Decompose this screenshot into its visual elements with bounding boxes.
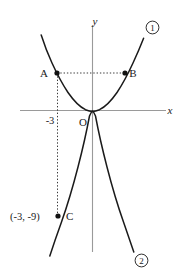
coordinate-plane-svg: A B C (-3, -9) O -3 x y 1 2	[0, 0, 183, 269]
curve-two-marker: 2	[135, 254, 148, 267]
graph-figure: A B C (-3, -9) O -3 x y 1 2	[0, 0, 183, 269]
parabola-downward	[50, 111, 134, 256]
origin-label: O	[79, 116, 87, 128]
point-b-marker	[122, 70, 127, 75]
curve-two-number: 2	[139, 256, 144, 266]
curve-one-marker: 1	[146, 21, 159, 34]
point-b-label: B	[129, 67, 136, 79]
y-axis-label: y	[92, 15, 98, 27]
x-axis-label: x	[167, 104, 173, 116]
point-c-coordinates: (-3, -9)	[10, 211, 40, 223]
x-tick-label-minus3: -3	[46, 115, 55, 126]
point-a-marker	[54, 70, 59, 75]
point-a-label: A	[40, 67, 48, 79]
point-c-label: C	[66, 210, 73, 222]
point-c-marker	[55, 213, 60, 218]
curve-one-number: 1	[150, 23, 155, 33]
